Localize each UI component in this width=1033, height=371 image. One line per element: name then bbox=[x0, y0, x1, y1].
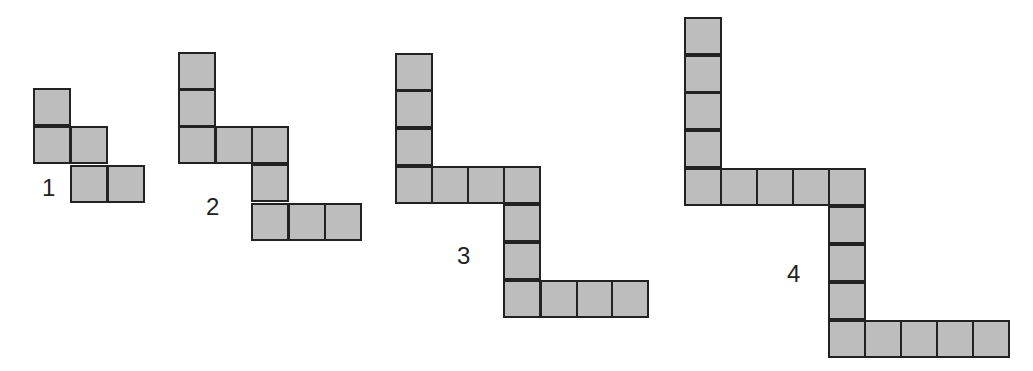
figure-3-square bbox=[503, 166, 541, 204]
figure-3-square bbox=[611, 280, 649, 318]
figure-4-square bbox=[936, 320, 974, 358]
figure-4-square bbox=[828, 168, 866, 206]
figure-4-square bbox=[720, 168, 758, 206]
figure-4-square bbox=[756, 168, 794, 206]
figure-3-square bbox=[467, 166, 505, 204]
figure-3-square bbox=[540, 280, 578, 318]
figure-2-square bbox=[288, 203, 326, 241]
figure-label-3: 3 bbox=[457, 244, 470, 268]
figure-1-square bbox=[107, 165, 145, 203]
figure-label-1: 1 bbox=[42, 176, 55, 200]
figure-2-square bbox=[251, 126, 289, 164]
figure-label-4: 4 bbox=[787, 262, 800, 286]
figure-3-square bbox=[576, 280, 614, 318]
figure-2-square bbox=[178, 89, 216, 127]
pattern-diagram: 1 2 3 4 bbox=[0, 0, 1033, 371]
figure-4-square bbox=[972, 320, 1010, 358]
figure-4-square bbox=[684, 130, 722, 168]
figure-3-square bbox=[503, 204, 541, 242]
figure-4-square bbox=[828, 320, 866, 358]
figure-4-square bbox=[684, 92, 722, 130]
figure-2-square bbox=[324, 203, 362, 241]
figure-3-square bbox=[395, 128, 433, 166]
figure-2-square bbox=[178, 52, 216, 90]
figure-1-square bbox=[70, 165, 108, 203]
figure-label-2: 2 bbox=[206, 195, 219, 219]
figure-2-square bbox=[178, 126, 216, 164]
figure-4-square bbox=[828, 206, 866, 244]
figure-3-square bbox=[503, 280, 541, 318]
figure-2-square bbox=[251, 164, 289, 202]
figure-4-square bbox=[684, 17, 722, 55]
figure-4-square bbox=[828, 282, 866, 320]
figure-3-square bbox=[431, 166, 469, 204]
figure-3-square bbox=[395, 53, 433, 91]
figure-1-square bbox=[70, 126, 108, 164]
figure-1-square bbox=[33, 126, 71, 164]
figure-1-square bbox=[33, 88, 71, 126]
figure-4-square bbox=[684, 168, 722, 206]
figure-2-square bbox=[215, 126, 253, 164]
figure-3-square bbox=[395, 90, 433, 128]
figure-2-square bbox=[251, 203, 289, 241]
figure-3-square bbox=[395, 166, 433, 204]
figure-4-square bbox=[864, 320, 902, 358]
figure-3-square bbox=[503, 242, 541, 280]
figure-4-square bbox=[828, 244, 866, 282]
figure-4-square bbox=[900, 320, 938, 358]
figure-4-square bbox=[792, 168, 830, 206]
figure-4-square bbox=[684, 55, 722, 93]
